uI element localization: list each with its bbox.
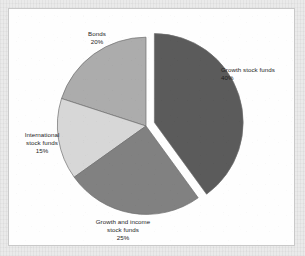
- pie-label-growth-stock-funds-value: 40%: [221, 74, 275, 82]
- pie-label-international-stock-funds-line1: International: [13, 131, 71, 139]
- pie-label-international-stock-funds-value: 15%: [13, 147, 71, 155]
- pie-label-bonds-value: 20%: [69, 38, 125, 46]
- pie-chart-svg: [9, 9, 295, 246]
- pie-label-international-stock-funds: International stock funds 15%: [13, 131, 71, 156]
- pie-chart-card: Growth stock funds 40% Bonds 20% Interna…: [8, 8, 295, 246]
- pie-label-bonds: Bonds 20%: [69, 30, 125, 46]
- pie-label-growth-stock-funds-name: Growth stock funds: [221, 66, 275, 74]
- pie-label-growth-and-income-stock-funds-line2: stock funds: [71, 226, 175, 234]
- pie-label-growth-stock-funds: Growth stock funds 40%: [221, 66, 275, 82]
- pie-label-growth-and-income-stock-funds-line1: Growth and income: [71, 218, 175, 226]
- pie-label-growth-and-income-stock-funds-value: 25%: [71, 234, 175, 242]
- pie-label-growth-and-income-stock-funds: Growth and income stock funds 25%: [71, 218, 175, 243]
- pie-label-international-stock-funds-line2: stock funds: [13, 139, 71, 147]
- screenshot-root: Growth stock funds 40% Bonds 20% Interna…: [0, 0, 305, 256]
- pie-label-bonds-name: Bonds: [69, 30, 125, 38]
